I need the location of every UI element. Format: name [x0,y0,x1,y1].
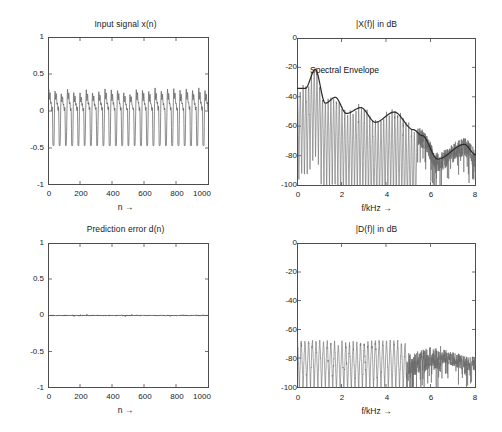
xtick-label: 6 [420,190,442,199]
ytick-label: 0 [261,238,297,247]
ytick-label: -40 [261,296,297,305]
xtick-label: 0 [38,392,60,401]
panel-input-spectrum: |X(f)| in dB 0 -20 -40 -60 -80 -100 0 2 … [251,0,502,216]
ytick-label: 1 [8,32,44,41]
panel-title-prediction-error: Prediction error d(n) [0,224,251,234]
xtick-label: 200 [70,392,92,401]
panel-title-input-spectrum: |X(f)| in dB [251,19,502,29]
waveform-d [49,314,209,316]
plot-area-prediction-error [48,243,209,388]
axes-input-spectrum [297,38,476,186]
xtick-label: 8 [464,393,486,402]
ytick-label: 0 [8,106,44,115]
xtick-label: 6 [420,393,442,402]
xaxis-label-n: n → [0,405,251,415]
ytick-label: -1 [8,383,44,392]
xtick-label: 0 [287,393,309,402]
xtick-label: 4 [376,190,398,199]
ytick-label: 0 [8,310,44,319]
spectrum-x [298,70,476,186]
xtick-label: 800 [166,189,188,198]
panel-error-spectrum: |D(f)| in dB 0 -20 -40 -60 -80 -100 0 2 … [251,216,502,432]
xtick-label: 200 [70,189,92,198]
axes-input-signal [48,37,209,185]
panel-title-error-spectrum: |D(f)| in dB [251,224,502,234]
xtick-label: 400 [102,392,124,401]
panel-input-signal: Input signal x(n) 1 0.5 0 -0.5 -1 0 200 … [0,0,251,216]
xtick-label: 600 [134,392,156,401]
xtick-label: 4 [376,393,398,402]
ytick-label: -100 [256,180,297,189]
ytick-label: -80 [261,151,297,160]
waveform-x [49,88,209,146]
xtick-label: 8 [464,190,486,199]
xtick-label: 800 [166,392,188,401]
ytick-label: -1 [8,180,44,189]
ytick-label: -100 [256,383,297,392]
ytick-label: -20 [261,62,297,71]
xaxis-label-n: n → [0,202,251,212]
ytick-label: -60 [261,121,297,130]
spectrum-d [298,340,476,387]
ytick-label: 0 [261,33,297,42]
ytick-label: 0.5 [8,69,44,78]
xtick-label: 2 [331,190,353,199]
ytick-label: 1 [8,238,44,247]
axes-error-spectrum [297,243,476,388]
xtick-label: 2 [331,393,353,402]
ytick-label: -0.5 [8,347,44,356]
ytick-label: -80 [261,354,297,363]
axes-prediction-error [48,243,209,388]
plot-area-error-spectrum [297,243,476,388]
xtick-label: 0 [38,189,60,198]
panel-title-input-signal: Input signal x(n) [0,19,251,29]
plot-area-input-signal [48,37,209,185]
ytick-label: -40 [261,92,297,101]
xtick-label: 600 [134,189,156,198]
ytick-label: 0.5 [8,274,44,283]
xtick-label: 1000 [186,189,218,198]
xtick-label: 0 [287,190,309,199]
matlab-figure: Input signal x(n) 1 0.5 0 -0.5 -1 0 200 … [0,0,502,432]
ytick-label: -20 [261,267,297,276]
xtick-label: 1000 [186,392,218,401]
xaxis-label-fkhz: f/kHz → [251,406,502,416]
plot-area-input-spectrum [297,38,476,186]
ytick-label: -60 [261,325,297,334]
xtick-label: 400 [102,189,124,198]
ytick-label: -0.5 [8,143,44,152]
xaxis-label-fkhz: f/kHz → [251,203,502,213]
panel-prediction-error: Prediction error d(n) 1 0.5 0 -0.5 -1 0 … [0,216,251,432]
